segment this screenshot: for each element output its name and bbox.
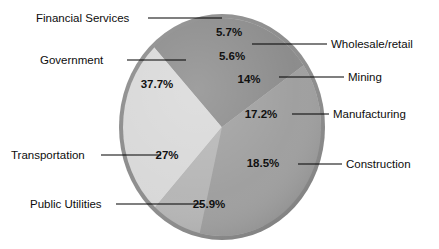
slice-value-label: 5.6%: [219, 50, 245, 62]
slice-value-label: 14%: [237, 73, 260, 85]
pie-chart: 5.7%5.6%14%17.2%18.5%25.9%27%37.7% Finan…: [0, 0, 439, 249]
slice-category-label[interactable]: Public Utilities: [30, 198, 102, 210]
slice-category-label[interactable]: Financial Services: [36, 12, 130, 24]
slice-category-label[interactable]: Manufacturing: [333, 108, 406, 120]
slice-value-label: 17.2%: [245, 108, 278, 120]
slice-category-label[interactable]: Construction: [346, 158, 411, 170]
slice-category-label[interactable]: Wholesale/retail: [331, 38, 413, 50]
slice-value-label: 5.7%: [216, 26, 242, 38]
slice-category-label[interactable]: Government: [40, 54, 104, 66]
slice-value-label: 18.5%: [247, 157, 280, 169]
slice-value-label: 37.7%: [141, 78, 174, 90]
slice-category-label[interactable]: Transportation: [11, 149, 85, 161]
slice-category-label[interactable]: Mining: [348, 71, 382, 83]
pie-chart-svg: 5.7%5.6%14%17.2%18.5%25.9%27%37.7% Finan…: [0, 0, 439, 249]
slice-value-label: 25.9%: [193, 198, 226, 210]
slice-value-label: 27%: [155, 149, 178, 161]
